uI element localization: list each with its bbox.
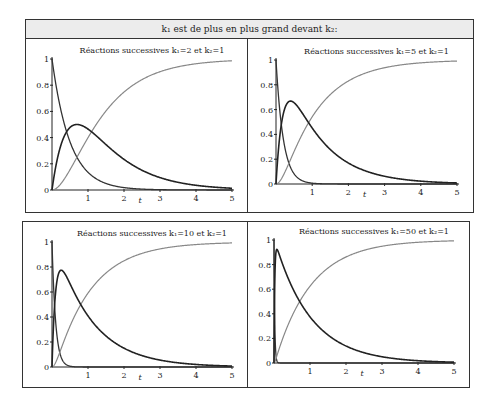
x-tick-label: 1 [307,367,312,376]
y-tick-label: 0.2 [260,155,273,164]
x-tick-label: 3 [157,371,162,380]
chart-panel-4: Réactions successives k₁=50 et k₂=100.20… [258,227,456,378]
charts-layer: Réactions successives k₁=2 et k₂=100.20.… [0,0,486,404]
y-tick-label: 0.8 [36,263,49,272]
x-tick-label: 5 [451,367,456,376]
y-tick-label: 0.4 [36,134,49,143]
x-tick-label: 1 [310,188,315,197]
x-tick-label: 2 [121,371,126,380]
y-tick-label: 0 [44,363,49,372]
chart-panel-2: Réactions successives k₁=5 et k₂=100.20.… [260,47,459,199]
y-tick-label: 0.4 [258,310,271,319]
x-tick-label: 4 [193,194,198,203]
y-tick-label: 0.4 [36,313,49,322]
x-tick-label: 2 [343,367,348,376]
x-tick-label: 2 [346,188,351,197]
curve-C [52,243,232,367]
curve-C [276,61,457,184]
chart-title: Réactions successives k₁=5 et k₂=1 [304,47,449,56]
x-axis-label: t [139,196,143,205]
y-tick-label: 0.8 [36,81,49,90]
y-tick-label: 0.6 [36,288,49,297]
chart-panel-3: Réactions successives k₁=10 et k₂=100.20… [36,229,234,382]
y-tick-label: 1 [266,236,271,245]
x-tick-label: 2 [121,194,126,203]
chart-title: Réactions successives k₁=2 et k₂=1 [80,46,225,55]
x-axis-label: t [363,190,367,199]
x-axis-label: t [139,373,143,382]
curve-A [52,242,232,367]
y-tick-label: 0.8 [258,261,271,270]
curve-A [276,60,457,184]
y-tick-label: 0 [266,359,271,368]
y-tick-label: 0.8 [260,81,273,90]
curve-B [274,249,454,363]
y-tick-label: 0 [44,186,49,195]
x-tick-label: 3 [157,194,162,203]
chart-title: Réactions successives k₁=10 et k₂=1 [77,229,227,238]
x-tick-label: 1 [85,371,90,380]
x-axis-label: t [361,369,365,378]
x-tick-label: 4 [415,367,420,376]
y-tick-label: 0.6 [260,106,273,115]
y-tick-label: 0.6 [258,285,271,294]
y-tick-label: 1 [268,56,273,65]
y-tick-label: 1 [44,55,49,64]
y-tick-label: 0.2 [36,338,49,347]
y-tick-label: 1 [44,238,49,247]
x-tick-label: 4 [193,371,198,380]
chart-title: Réactions successives k₁=50 et k₂=1 [299,227,449,236]
chart-panel-1: Réactions successives k₁=2 et k₂=100.20.… [36,46,234,205]
x-tick-label: 5 [454,188,459,197]
x-tick-label: 4 [418,188,423,197]
y-tick-label: 0 [268,180,273,189]
y-tick-label: 0.6 [36,107,49,116]
curve-B [52,270,232,367]
curve-B [52,125,232,191]
y-tick-label: 0.2 [36,160,49,169]
y-tick-label: 0.2 [258,334,271,343]
curve-A [274,240,454,363]
x-tick-label: 1 [85,194,90,203]
x-tick-label: 3 [379,367,384,376]
x-tick-label: 5 [229,371,234,380]
x-tick-label: 5 [229,194,234,203]
curve-C [274,241,454,363]
x-tick-label: 3 [382,188,387,197]
curve-B [276,101,457,184]
y-tick-label: 0.4 [260,130,273,139]
